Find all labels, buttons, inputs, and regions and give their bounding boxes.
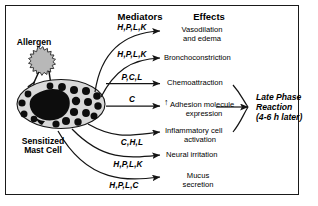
- effect-label-7a: Mucus: [166, 172, 230, 180]
- effect-label-5a: Inflammatory cell: [165, 127, 245, 135]
- late-phase-line2: Reaction: [256, 102, 316, 112]
- effect-label-1b: and edema: [166, 35, 238, 43]
- effect-label-7b: secretion: [166, 181, 230, 189]
- figure-root: Mediators Effects Allergen Sensitized Ma…: [0, 0, 318, 206]
- late-phase-line1: Late Phase: [256, 92, 316, 102]
- mast-cell-label-line2: Mast Cell: [12, 146, 74, 155]
- effect-label-5b: activation: [164, 136, 236, 144]
- mast-cell-body: [17, 80, 105, 129]
- effects-header: Effects: [176, 12, 242, 22]
- effect-label-6: Neural irritation: [166, 151, 246, 159]
- effect-label-4a: Adhesion molecule: [170, 101, 250, 109]
- mediator-label-5: C,H,L: [104, 139, 160, 148]
- allergen-label: Allergen: [8, 38, 60, 47]
- effect-label-4b: expression: [166, 110, 242, 118]
- mediator-label-4: C: [112, 96, 152, 105]
- mediator-label-3: P,C,L: [108, 74, 156, 83]
- mediator-label-6: H,P,L,K: [100, 161, 156, 170]
- allergen-icon: [29, 46, 56, 75]
- increase-arrow-icon: ↑: [164, 98, 169, 108]
- mediator-label-7: H,P,L,C: [96, 182, 152, 191]
- mediators-header: Mediators: [104, 12, 176, 22]
- effect-label-1a: Vasodilation: [166, 26, 238, 34]
- effect-label-3: Chemoattraction: [167, 79, 247, 87]
- mediator-label-2: H,P,L,K: [104, 51, 160, 60]
- arrow-inflammatory: [88, 124, 160, 135]
- effect-label-2: Bronchoconstriction: [164, 54, 248, 62]
- late-phase-line3: (4-6 h later): [256, 112, 316, 122]
- mediator-label-1: H,P,L,K: [104, 24, 160, 33]
